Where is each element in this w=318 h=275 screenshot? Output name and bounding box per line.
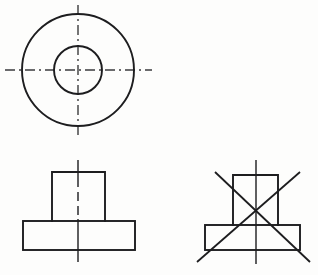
- reject-cross-icon: [197, 172, 310, 262]
- front-view-base-outline: [23, 221, 135, 250]
- drawing-sheet: [0, 0, 318, 275]
- rejected-view-base-outline: [205, 225, 300, 250]
- drawing-canvas: [0, 0, 318, 275]
- top-view: [5, 5, 152, 135]
- reject-cross-stroke-2: [197, 172, 300, 262]
- reject-cross-stroke-1: [215, 172, 310, 262]
- front-view-correct: [23, 160, 135, 262]
- front-view-rejected: [197, 160, 310, 264]
